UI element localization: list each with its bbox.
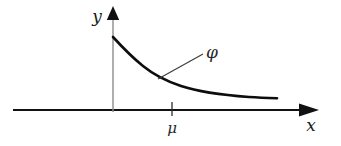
phi-curve-label: φ <box>206 42 218 62</box>
y-axis-label: y <box>91 6 102 26</box>
mu-tick-label: μ <box>167 119 177 137</box>
density-curve-diagram: y x μ φ <box>0 0 341 146</box>
phi-curve <box>113 37 277 98</box>
phi-leader-line <box>158 54 203 79</box>
x-axis-label: x <box>306 115 316 135</box>
figure-container: y x μ φ <box>0 0 341 146</box>
y-axis-arrowhead-icon <box>107 6 119 20</box>
